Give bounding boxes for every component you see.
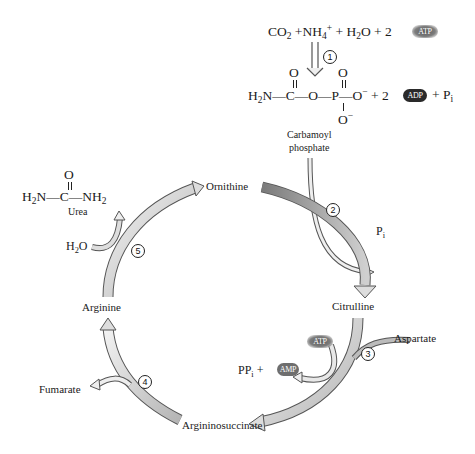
plus-sign: + <box>335 24 343 39</box>
pi-released: Pi <box>376 225 385 240</box>
ppi-subscript: i <box>251 370 253 379</box>
step-number: 3 <box>365 349 370 359</box>
oxygen: O <box>289 65 299 80</box>
step-number: 1 <box>327 52 332 62</box>
ammonium-label: NH <box>302 24 322 39</box>
co2-subscript: 2 <box>287 31 292 41</box>
step-1-marker: 1 <box>323 50 337 64</box>
adp-icon: ADP <box>403 89 427 102</box>
formula-part: H <box>248 88 258 103</box>
pi-label: + P <box>432 87 451 102</box>
adp-label: ADP <box>407 91 422 100</box>
adp-coefficient: + 2 <box>371 88 389 103</box>
metabolite-name: Aspartate <box>394 332 436 344</box>
urea-o: O <box>64 168 74 182</box>
urea-label: Urea <box>68 206 87 217</box>
name-line: Carbamoyl <box>287 130 331 140</box>
name-line: phosphate <box>287 143 331 153</box>
formula-subscript: 2 <box>102 196 107 206</box>
reactants-line: CO2 +NH4+ + H2O + 2 <box>268 24 392 41</box>
carbamoyl-o-bottom: O− <box>338 112 353 127</box>
nh4-charge: + <box>327 23 332 33</box>
urea-formula: H2N—C—NH2 <box>22 190 106 206</box>
atp-coefficient: 2 <box>385 24 392 39</box>
citrulline-label: Citrulline <box>332 301 374 312</box>
pi-label: P <box>376 224 383 238</box>
atp-label: ATP <box>418 27 431 36</box>
oxygen: O <box>64 167 74 182</box>
aspartate-label: Aspartate <box>394 333 436 344</box>
oxygen: O <box>338 112 348 127</box>
formula-part: N—C—O—P—O <box>262 88 362 103</box>
double-bond <box>342 80 346 88</box>
step-number: 2 <box>330 205 335 215</box>
ppi-label: PP <box>238 363 251 377</box>
atp-icon: ATP <box>412 25 438 38</box>
step1-arrow <box>307 42 323 76</box>
charge: − <box>348 111 353 121</box>
plus-sign: + <box>374 24 382 39</box>
pi-product: + Pi <box>432 88 453 104</box>
carbamoyl-phosphate-formula: H2N—C—O—P—O− + 2 <box>248 88 389 105</box>
oxygen: O <box>338 65 348 80</box>
formula-part: H <box>22 189 32 204</box>
amp-icon: AMP <box>277 363 299 376</box>
amp-label: AMP <box>280 365 296 374</box>
step-3-marker: 3 <box>361 347 375 361</box>
charge: − <box>362 87 367 97</box>
water-label: H <box>346 24 356 39</box>
metabolite-name: Arginine <box>82 301 121 313</box>
co2-label: CO <box>268 24 287 39</box>
ppi-product: PPi + <box>238 364 263 379</box>
water-o: O <box>361 24 371 39</box>
plus-sign: + <box>257 363 264 377</box>
metabolite-name: Argininosuccinate <box>182 419 262 431</box>
arginine-label: Arginine <box>82 302 121 313</box>
step-4-marker: 4 <box>138 375 152 389</box>
step-number: 5 <box>135 246 140 256</box>
water-h: H <box>66 239 75 253</box>
metabolite-name: Ornithine <box>206 180 248 192</box>
carbamoyl-o-top-2: O <box>338 66 348 80</box>
step-number: 4 <box>142 377 147 387</box>
fumarate-label: Fumarate <box>39 384 81 395</box>
water-o: O <box>79 239 88 253</box>
single-bond <box>343 103 344 111</box>
ornithine-label: Ornithine <box>206 181 248 192</box>
metabolite-name: Fumarate <box>39 383 81 395</box>
urea-name: Urea <box>68 207 87 217</box>
atp-label: ATP <box>313 337 326 346</box>
atp-icon-step3: ATP <box>307 335 333 348</box>
metabolite-name: Citrulline <box>332 300 374 312</box>
water-input: H2O <box>66 240 88 255</box>
step-5-marker: 5 <box>131 244 145 258</box>
carbamoyl-o-top-1: O <box>289 66 299 80</box>
pi-subscript: i <box>451 94 454 104</box>
formula-part: N—C—NH <box>36 189 101 204</box>
step-2-marker: 2 <box>326 203 340 217</box>
carbamoyl-phosphate-name: Carbamoyl phosphate <box>287 130 331 153</box>
pi-subscript: i <box>383 231 385 240</box>
double-bond <box>293 80 297 88</box>
argininosuccinate-label: Argininosuccinate <box>182 420 262 431</box>
